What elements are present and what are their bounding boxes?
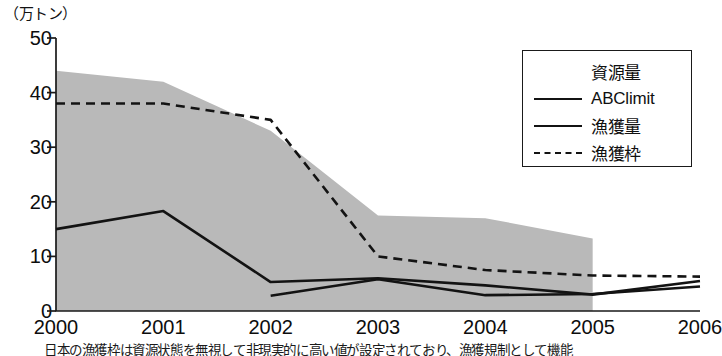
legend-item-quota: 漁獲枠	[523, 139, 691, 166]
x-axis-tick-label: 2001	[141, 316, 186, 339]
x-axis-tick-label: 2003	[356, 316, 401, 339]
legend-label-abclimit: ABClimit	[591, 89, 655, 109]
legend-item-catch: 漁獲量	[523, 112, 691, 139]
x-axis-tick-label: 2004	[463, 316, 508, 339]
solid-line-icon	[534, 118, 582, 134]
dashed-line-icon	[534, 145, 582, 161]
solid-line-icon	[534, 91, 582, 107]
x-axis-tick-label: 2000	[34, 316, 79, 339]
series-area-stock	[56, 71, 593, 311]
x-axis-tick-label: 2005	[570, 316, 615, 339]
legend-label-catch: 漁獲量	[591, 113, 641, 138]
x-axis-tick-label: 2002	[248, 316, 293, 339]
figure-caption: 日本の漁獲枠は資源状態を無視して非現実的に高い値が設定されており、漁獲規制として…	[44, 339, 708, 356]
legend-item-abclimit: ABClimit	[523, 85, 691, 112]
area-swatch-icon	[534, 64, 582, 80]
legend-item-stock: 資源量	[523, 58, 691, 85]
legend-label-quota: 漁獲枠	[591, 140, 641, 165]
x-axis-tick-label: 2006	[678, 316, 722, 339]
legend-label-stock: 資源量	[591, 59, 641, 84]
chart-legend: 資源量 ABClimit 漁獲量 漁獲枠	[522, 50, 692, 167]
